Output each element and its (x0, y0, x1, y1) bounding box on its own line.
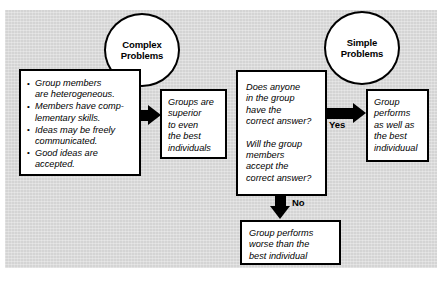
edge-label-no: No (292, 198, 305, 208)
list-item: Good ideas are accepted. (27, 148, 134, 171)
circle-complex-line1: Complex (121, 39, 164, 50)
arrow-shaft (327, 108, 355, 119)
groups-superior-text: Groups are superior to even the best ind… (168, 97, 221, 154)
group-characteristics-list: Group members are heterogeneous. Members… (27, 78, 134, 171)
yes-outcome-text: Group performs as well as the best indiv… (374, 97, 423, 154)
circle-complex-text: Complex Problems (121, 39, 164, 61)
arrow-head (353, 103, 366, 123)
decision-question-1: Does anyone in the group have the correc… (246, 82, 320, 128)
edge-label-yes: Yes (329, 120, 345, 130)
box-groups-superior-outcome: Groups are superior to even the best ind… (160, 89, 227, 159)
box-group-characteristics: Group members are heterogeneous. Members… (19, 69, 141, 176)
arrow-head (270, 206, 290, 219)
circle-simple-line1: Simple (341, 37, 384, 48)
box-performs-worse-outcome: Group performs worse than the best indiv… (240, 220, 341, 265)
list-item: Ideas may be freely communicated. (27, 125, 134, 148)
circle-complex-line2: Problems (121, 50, 164, 61)
box-performs-as-well-outcome: Group performs as well as the best indiv… (366, 89, 429, 162)
list-item: Members have comp- lementary skills. (27, 101, 134, 124)
decision-question-2: Will the group members accept the correc… (246, 139, 320, 185)
circle-simple-line2: Problems (341, 48, 384, 59)
circle-simple-text: Simple Problems (341, 37, 384, 59)
no-outcome-text: Group performs worse than the best indiv… (249, 228, 335, 262)
list-item: Group members are heterogeneous. (27, 78, 134, 101)
flowchart-figure: Complex Problems Simple Problems Group m… (0, 0, 445, 289)
node-simple-problems: Simple Problems (324, 11, 400, 85)
box-decision-questions: Does anyone in the group have the correc… (236, 70, 327, 196)
